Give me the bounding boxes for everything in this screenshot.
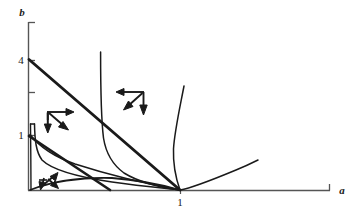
curve-asymptote-stem (31, 124, 32, 190)
phase-plane-figure: b a 4 1 1 (0, 0, 359, 213)
figure-canvas: b a 4 1 1 (0, 0, 359, 213)
y-axis-label: b (19, 6, 25, 18)
y-tick-label-4: 4 (18, 54, 24, 66)
x-axis-label: a (339, 184, 345, 196)
x-tick-label-1: 1 (177, 196, 183, 208)
y-tick-label-1: 1 (18, 129, 24, 141)
